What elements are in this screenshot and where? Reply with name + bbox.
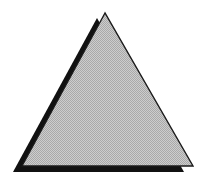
triangle-figure	[0, 0, 202, 178]
triangle-shape	[22, 13, 193, 166]
